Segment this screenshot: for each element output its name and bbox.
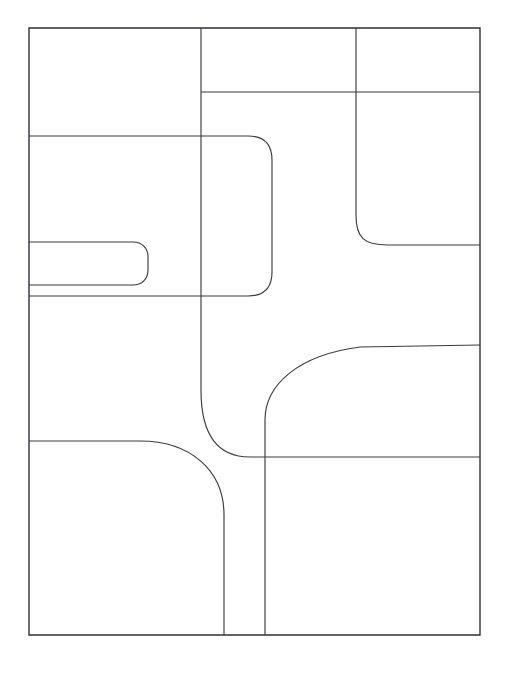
line-diagram-canvas bbox=[0, 0, 514, 680]
diagram-background bbox=[0, 0, 514, 680]
figure-root bbox=[0, 0, 514, 680]
